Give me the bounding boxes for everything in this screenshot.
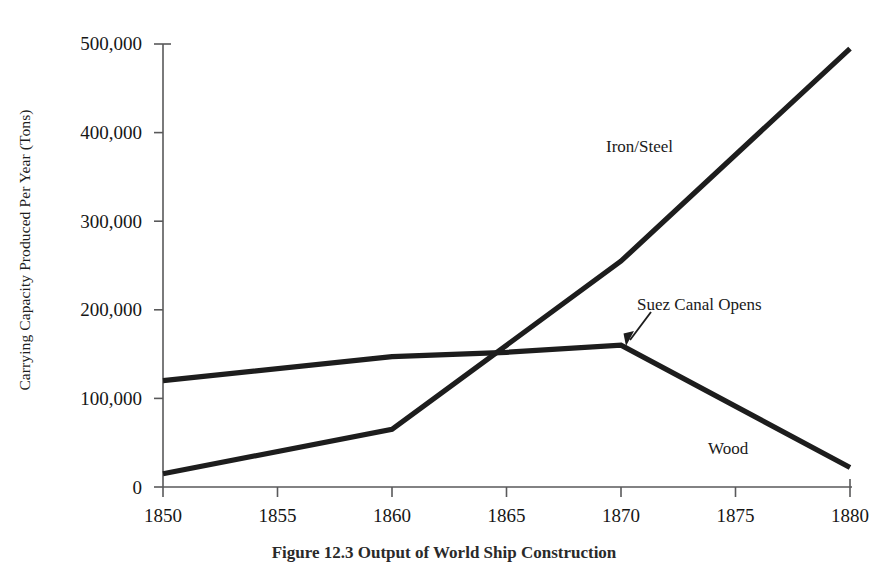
x-tick-label-1880: 1880 [800,506,888,525]
x-tick-label-1860: 1860 [342,506,442,525]
x-tick-label-1875: 1875 [686,506,786,525]
x-tick-marks [163,487,850,497]
y-axis-title: Carrying Capacity Produced Per Year (Ton… [8,0,42,500]
series-label-iron-steel: Iron/Steel [606,138,673,155]
x-tick-label-1855: 1855 [228,506,328,525]
y-tick-label-200000: 200,000 [22,300,142,319]
y-tick-marks [154,44,163,487]
figure-caption: Figure 12.3 Output of World Ship Constru… [0,543,888,563]
annotation-label-suez: Suez Canal Opens [637,296,762,313]
series-label-wood: Wood [708,440,748,457]
x-tick-label-1870: 1870 [571,506,671,525]
y-tick-label-100000: 100,000 [22,389,142,408]
y-tick-label-400000: 400,000 [22,123,142,142]
suez-annotation-arrow [624,312,652,346]
x-tick-label-1850: 1850 [113,506,213,525]
y-tick-label-500000: 500,000 [22,34,142,53]
x-tick-label-1865: 1865 [457,506,557,525]
y-tick-label-0: 0 [22,478,142,497]
y-tick-label-300000: 300,000 [22,212,142,231]
